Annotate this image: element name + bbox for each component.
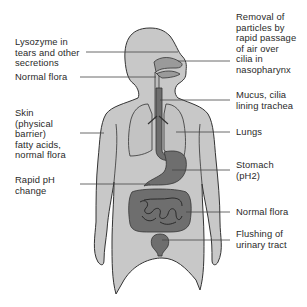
label-rapid-ph: Rapid pH change <box>15 175 55 196</box>
label-lungs: Lungs <box>236 127 262 138</box>
label-normal-flora-intestine: Normal flora <box>236 207 288 218</box>
label-normal-flora-mouth: Normal flora <box>15 72 67 83</box>
label-skin: Skin (physical barrier) fatty acids, nor… <box>15 108 66 161</box>
label-stomach: Stomach (pH2) <box>236 160 274 181</box>
label-urinary: Flushing of urinary tract <box>236 229 287 250</box>
label-trachea: Mucus, cilia lining trachea <box>236 90 293 111</box>
label-nasopharynx: Removal of particles by rapid passage of… <box>236 12 296 76</box>
label-lysozyme: Lysozyme in tears and other secretions <box>15 37 80 69</box>
